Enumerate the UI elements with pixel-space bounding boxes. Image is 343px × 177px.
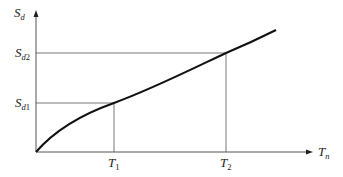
t2-label: T2 [220,155,231,172]
diagram-canvas: Sd Sd2 Sd1 T1 T2 Tn [0,0,343,177]
t1-label: T1 [108,155,119,172]
x-axis-label: Tn [318,144,329,161]
response-curve [36,30,276,152]
sd1-label: Sd1 [15,95,30,112]
y-axis-arrow-icon [34,10,39,17]
x-axis-arrow-icon [306,150,313,155]
sd2-label: Sd2 [15,45,30,62]
y-axis-label: Sd [14,5,26,22]
